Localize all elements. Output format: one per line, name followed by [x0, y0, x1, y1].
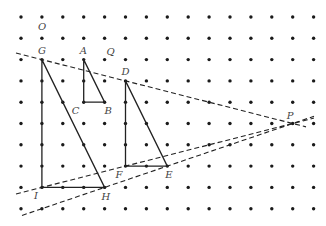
grid-dot: [103, 37, 106, 40]
grid-dot: [187, 122, 190, 125]
grid-dot: [187, 15, 190, 18]
point-label-i: I: [33, 190, 39, 201]
grid-dot: [19, 58, 22, 61]
grid-dot: [228, 207, 231, 210]
grid-dot: [249, 122, 252, 125]
point-label-g: G: [38, 45, 46, 56]
grid-dot: [61, 143, 64, 146]
grid-dot: [40, 15, 43, 18]
grid-dot: [103, 164, 106, 167]
grid-dot: [270, 79, 273, 82]
grid-dot: [145, 186, 148, 189]
grid-dot: [103, 79, 106, 82]
grid-dot: [166, 101, 169, 104]
point-label-q: Q: [107, 46, 115, 57]
grid-dot: [187, 101, 190, 104]
grid-dot: [166, 15, 169, 18]
point-label-e: E: [164, 169, 173, 180]
grid-dot: [207, 122, 210, 125]
grid-dot: [103, 143, 106, 146]
grid-dot: [249, 37, 252, 40]
grid-dot: [249, 58, 252, 61]
grid-dot: [249, 207, 252, 210]
point-label-f: F: [115, 169, 124, 180]
grid-dot: [61, 15, 64, 18]
grid-dot: [166, 58, 169, 61]
grid-dot: [207, 15, 210, 18]
triangle-GHI: [42, 60, 105, 188]
grid-dot: [312, 37, 315, 40]
grid-dot: [291, 207, 294, 210]
grid-dot: [82, 37, 85, 40]
grid-dot: [103, 58, 106, 61]
grid-dot: [249, 79, 252, 82]
point-label-p: P: [286, 110, 294, 121]
grid-dot: [270, 37, 273, 40]
grid-dot: [124, 207, 127, 210]
line-GDP: [16, 53, 306, 127]
grid-dot: [103, 207, 106, 210]
grid-dot: [228, 164, 231, 167]
grid-dot: [249, 164, 252, 167]
grid-dot: [19, 143, 22, 146]
grid-dot: [82, 164, 85, 167]
grid-dot: [207, 37, 210, 40]
grid-dot: [270, 122, 273, 125]
grid-dot: [19, 186, 22, 189]
grid-dot: [145, 79, 148, 82]
grid-dot: [19, 15, 22, 18]
grid-dot: [166, 186, 169, 189]
grid-dot: [187, 164, 190, 167]
grid-dot: [145, 15, 148, 18]
grid-dot: [187, 207, 190, 210]
grid-dot: [291, 37, 294, 40]
grid-dot: [312, 207, 315, 210]
point-label-a: A: [79, 45, 87, 56]
point-label-h: H: [101, 191, 111, 202]
grid-dot: [61, 164, 64, 167]
grid-dot: [312, 101, 315, 104]
grid-dots: [19, 15, 315, 210]
grid-dot: [124, 15, 127, 18]
grid-dot: [291, 58, 294, 61]
grid-dot: [291, 143, 294, 146]
point-label-c: C: [72, 105, 80, 116]
grid-dot: [187, 37, 190, 40]
grid-dot: [61, 122, 64, 125]
grid-dot: [187, 186, 190, 189]
grid-dot: [145, 207, 148, 210]
grid-dot: [82, 207, 85, 210]
grid-dot: [19, 37, 22, 40]
grid-dot: [207, 186, 210, 189]
grid-dot: [228, 122, 231, 125]
grid-dot: [187, 58, 190, 61]
grid-dot: [249, 101, 252, 104]
grid-dot: [270, 164, 273, 167]
grid-dot: [166, 79, 169, 82]
grid-dot: [228, 186, 231, 189]
line-IFP: [16, 118, 314, 194]
grid-dot: [166, 122, 169, 125]
grid-dot: [270, 186, 273, 189]
grid-dot: [228, 101, 231, 104]
grid-dot: [312, 122, 315, 125]
grid-dot: [270, 101, 273, 104]
grid-dot: [82, 15, 85, 18]
point-labels: OGAQCBDFEIHP: [33, 21, 294, 202]
grid-dot: [312, 15, 315, 18]
grid-dot: [228, 58, 231, 61]
grid-dot: [103, 122, 106, 125]
grid-dot: [312, 164, 315, 167]
grid-dot: [61, 37, 64, 40]
grid-dot: [291, 79, 294, 82]
grid-dot: [207, 79, 210, 82]
grid-dot: [82, 122, 85, 125]
dot-grid-diagram: OGAQCBDFEIHP: [0, 0, 326, 226]
grid-dot: [187, 143, 190, 146]
grid-dot: [19, 79, 22, 82]
grid-dot: [207, 164, 210, 167]
grid-dot: [270, 58, 273, 61]
grid-dot: [270, 15, 273, 18]
grid-dot: [249, 186, 252, 189]
grid-dot: [166, 143, 169, 146]
